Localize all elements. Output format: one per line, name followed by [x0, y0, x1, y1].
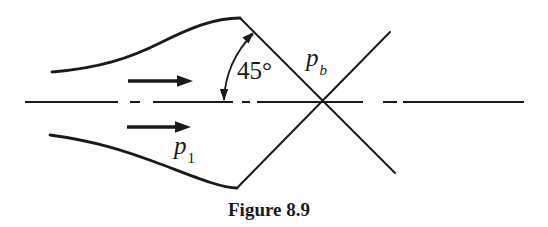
inlet-pressure-subscript: 1	[188, 150, 196, 166]
inlet-pressure-symbol: p	[174, 132, 187, 159]
upper-nozzle-contour	[52, 18, 240, 72]
arc-arrowhead-bottom-icon	[220, 89, 228, 101]
back-pressure-label: pb	[306, 44, 326, 72]
arc-arrowhead-top-icon	[243, 32, 255, 44]
nozzle-flow-drawing	[0, 0, 548, 227]
upper-flow-arrow-icon	[177, 75, 193, 87]
lower-nozzle-contour	[50, 135, 237, 188]
figure-8-9-diagram: 45° pb p1 Figure 8.9	[0, 0, 548, 227]
angle-value-label: 45°	[237, 57, 272, 85]
upper-lip-shock-line	[240, 18, 395, 173]
back-pressure-subscript: b	[320, 62, 328, 78]
figure-caption: Figure 8.9	[228, 199, 310, 221]
back-pressure-symbol: p	[306, 44, 319, 71]
inlet-pressure-label: p1	[174, 132, 194, 160]
